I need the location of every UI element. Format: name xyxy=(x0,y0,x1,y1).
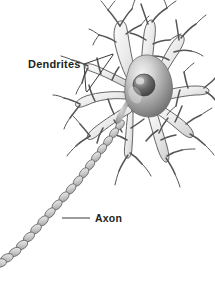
dendrites-label: Dendrites xyxy=(28,58,81,70)
axon-label: Axon xyxy=(95,212,122,224)
nucleolus-highlight xyxy=(136,77,144,84)
dendrite-branch xyxy=(75,92,127,108)
axon-group xyxy=(0,118,126,268)
myelin-sheath xyxy=(0,118,126,268)
neuron-illustration: Dendrites Axon xyxy=(0,0,215,290)
neuron-diagram: Dendrites Axon xyxy=(0,0,215,290)
